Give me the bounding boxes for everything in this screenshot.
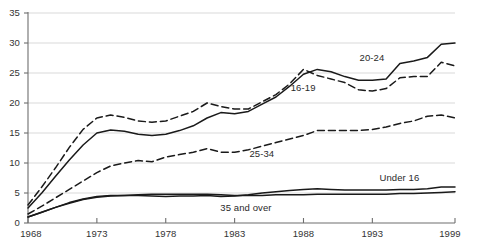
y-tick-label: 0 [0,217,20,228]
x-tick-label: 1999 [433,228,467,239]
y-tick-label: 30 [0,37,20,48]
y-tick-label: 35 [0,7,20,18]
data-series-group [28,43,455,217]
x-tick-label: 1973 [80,228,114,239]
y-tick-label: 20 [0,97,20,108]
x-tick-label: 1968 [14,228,48,239]
series-label-16-19: 16-19 [291,82,316,93]
y-tick-label: 5 [0,187,20,198]
y-tick-label: 10 [0,157,20,168]
line-chart: 05101520253035 1968197319781983198819931… [0,0,480,243]
x-tick-label: 1978 [149,228,183,239]
series-label-35-and-over: 35 and over [220,202,271,213]
x-tick-label: 1988 [286,228,320,239]
x-tick-label: 1983 [218,228,252,239]
series-label-under-16: Under 16 [380,172,420,183]
gridlines [28,13,455,193]
x-tick-label: 1993 [355,228,389,239]
y-tick-marks [24,13,28,223]
series-line-16-19 [28,62,455,205]
series-line-20-24 [28,43,455,208]
series-label-20-24: 20-24 [360,52,385,63]
y-tick-label: 25 [0,67,20,78]
x-tick-marks [28,218,455,223]
series-line-25-34 [28,115,455,214]
axis-lines [28,12,455,223]
y-tick-label: 15 [0,127,20,138]
series-label-25-34: 25-34 [249,148,274,159]
